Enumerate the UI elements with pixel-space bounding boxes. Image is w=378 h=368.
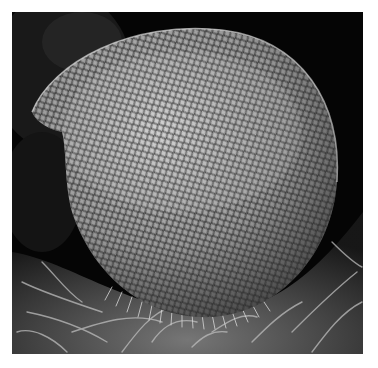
compound-eye-image: [12, 12, 363, 354]
micrograph-frame: [12, 12, 363, 354]
